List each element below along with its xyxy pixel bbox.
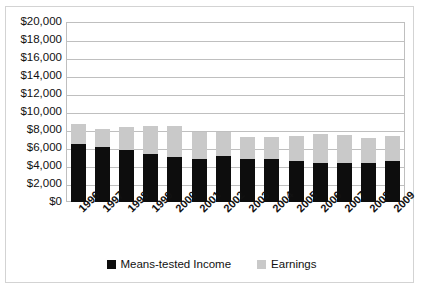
gridline: [67, 95, 404, 96]
legend-label: Means-tested Income: [121, 258, 232, 270]
y-axis: $20,000$18,000$16,000$14,000$12,000$10,0…: [0, 22, 62, 202]
gridline: [67, 59, 404, 60]
legend-swatch-icon: [107, 260, 116, 269]
y-axis-tick-label: $20,000: [0, 16, 62, 27]
legend-label: Earnings: [271, 258, 316, 270]
y-axis-tick-label: $16,000: [0, 52, 62, 63]
legend-item[interactable]: Earnings: [257, 258, 316, 270]
legend-swatch-icon: [257, 260, 266, 269]
gridline: [67, 113, 404, 114]
legend-item[interactable]: Means-tested Income: [107, 258, 232, 270]
y-axis-tick-label: $2,000: [0, 178, 62, 189]
gridline: [67, 41, 404, 42]
y-axis-tick-label: $6,000: [0, 142, 62, 153]
gridline: [67, 131, 404, 132]
chart-legend: Means-tested IncomeEarnings: [0, 258, 423, 270]
gridline: [67, 185, 404, 186]
x-axis: 1996199719981999200020012002200320042005…: [66, 202, 405, 254]
y-axis-tick-label: $8,000: [0, 124, 62, 135]
y-axis-tick-label: $4,000: [0, 160, 62, 171]
gridline: [67, 77, 404, 78]
gridline: [67, 167, 404, 168]
y-axis-tick-label: $18,000: [0, 34, 62, 45]
y-axis-tick-label: $0: [0, 196, 62, 207]
gridline: [67, 149, 404, 150]
y-axis-tick-label: $10,000: [0, 106, 62, 117]
plot-area: [66, 22, 405, 202]
y-axis-tick-label: $14,000: [0, 70, 62, 81]
chart-container: $20,000$18,000$16,000$14,000$12,000$10,0…: [0, 0, 423, 290]
y-axis-tick-label: $12,000: [0, 88, 62, 99]
chart-title-clipped: [18, 0, 398, 3]
